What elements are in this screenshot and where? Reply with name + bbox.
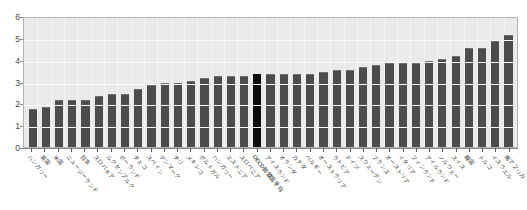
bar[interactable] (214, 76, 222, 147)
bar[interactable] (333, 70, 341, 147)
x-axis-label-slot: アイスランド (264, 152, 277, 210)
x-axis-label-slot: 英国 (38, 152, 51, 210)
x-axis-label-slot: ニュージーランド (65, 152, 78, 210)
x-axis-label-slot: チリ (171, 152, 184, 210)
bar[interactable] (240, 76, 248, 147)
bar[interactable] (95, 96, 103, 147)
x-axis-label-slot: ノルウェー (436, 152, 449, 210)
x-axis-label-slot: ドイツ (343, 152, 356, 210)
bar[interactable] (187, 81, 195, 148)
x-axis-label-slot: ルクセンブルク (105, 152, 118, 210)
bar[interactable] (280, 74, 288, 147)
x-axis-label-slot: カナダ (290, 152, 303, 210)
bar[interactable] (293, 74, 301, 147)
x-axis-label-slot: フィンランド (410, 152, 423, 210)
y-axis-tick-label: 5 (0, 34, 20, 44)
bar[interactable] (452, 56, 460, 147)
x-axis-label-slot: ポーランド (118, 152, 131, 210)
x-axis-label-slot: スロバキア (91, 152, 104, 210)
x-axis-label: 南アフリカ (503, 153, 527, 181)
x-axis-label-slot: エストニア (224, 152, 237, 210)
gridline (24, 105, 517, 106)
gridline (24, 84, 517, 85)
y-axis-tick-label: 4 (0, 56, 20, 66)
gridline (24, 40, 517, 41)
bar[interactable] (359, 67, 367, 147)
bar[interactable] (68, 100, 76, 147)
bar[interactable] (161, 83, 169, 147)
x-axis-label-slot: メキシコ (184, 152, 197, 210)
bar[interactable] (108, 94, 116, 147)
x-axis-label-slot: スペイン (144, 152, 157, 210)
y-axis: 0123456 (0, 0, 20, 152)
bar[interactable] (253, 74, 261, 147)
x-axis-label-slot: ポルトガル (197, 152, 210, 210)
x-axis-label-slot: スイス (450, 152, 463, 210)
x-axis-label-slot: イスラエル (489, 152, 502, 210)
x-axis-label: チリ (171, 153, 185, 167)
x-axis-label-slot: ハンガリー (25, 152, 38, 210)
x-axis-label-slot: チェコ (131, 152, 144, 210)
y-axis-tick-label: 0 (0, 143, 20, 153)
x-axis-label-slot: ベルギー (304, 152, 317, 210)
x-axis-label-slot: 韓国 (463, 152, 476, 210)
x-axis-label: 韓国 (463, 153, 477, 167)
bar[interactable] (147, 85, 155, 147)
y-axis-tick-label: 1 (0, 121, 20, 131)
x-axis-label-slot: イタリア (396, 152, 409, 210)
y-axis-tick-label: 6 (0, 12, 20, 22)
gridline (24, 127, 517, 128)
x-axis-label-slot: 日本 (78, 152, 91, 210)
x-axis-label-slot: フランス (370, 152, 383, 210)
bar[interactable] (200, 78, 208, 147)
x-axis-label-slot: スロベニア (237, 152, 250, 210)
x-axis-label-slot: 南アフリカ (503, 152, 516, 210)
x-axis-label: 米国 (52, 153, 66, 167)
x-axis-label-slot: トルコ (476, 152, 489, 210)
x-axis-labels: ハンガリー英国米国ニュージーランド日本スロバキアルクセンブルクポーランドチェコス… (23, 152, 518, 210)
bar[interactable] (425, 61, 433, 147)
x-axis-label-slot: ハンガリー (211, 152, 224, 210)
x-axis-label-slot: オーストリア (383, 152, 396, 210)
bar[interactable] (491, 41, 499, 147)
x-axis-label: 日本 (78, 153, 92, 167)
gridline (24, 62, 517, 63)
x-axis-label-slot: デンマーク (158, 152, 171, 210)
x-axis-label: 英国 (39, 153, 53, 167)
x-axis-label-slot: オランダ (277, 152, 290, 210)
bar[interactable] (504, 35, 512, 147)
bar[interactable] (346, 70, 354, 147)
x-axis-label-slot: ラトビア (330, 152, 343, 210)
y-axis-tick-label: 2 (0, 99, 20, 109)
x-axis-label-slot: オーストラリア (317, 152, 330, 210)
bar[interactable] (227, 76, 235, 147)
x-axis-label-slot: アイルランド (423, 152, 436, 210)
x-axis-label-slot: 米国 (52, 152, 65, 210)
bar[interactable] (266, 74, 274, 147)
bar[interactable] (81, 100, 89, 147)
bar[interactable] (438, 59, 446, 147)
y-axis-tick-label: 3 (0, 78, 20, 88)
bar[interactable] (306, 74, 314, 147)
bar[interactable] (134, 89, 142, 147)
x-axis-label-slot: OECD加盟国平均 (251, 152, 264, 210)
bar[interactable] (55, 100, 63, 147)
plot-area (23, 17, 518, 148)
bar[interactable] (121, 94, 129, 147)
bar[interactable] (174, 83, 182, 147)
x-axis-label-slot: スウェーデン (357, 152, 370, 210)
